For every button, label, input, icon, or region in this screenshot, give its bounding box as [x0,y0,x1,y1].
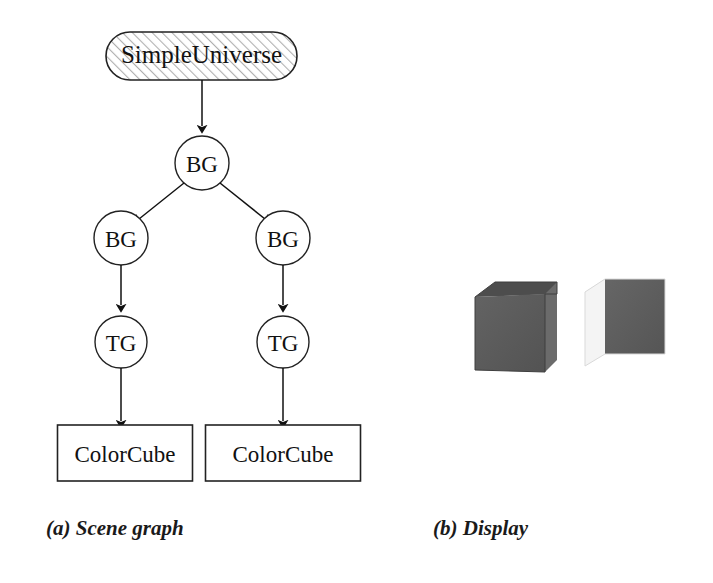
simple-universe-label: SimpleUniverse [121,41,282,68]
edge-line [139,183,184,219]
colorcube-right-label: ColorCube [233,442,334,467]
figure-canvas: SimpleUniverse BG BG BG [0,0,713,583]
node-tg-right[interactable]: TG [257,316,309,368]
tg-right-label: TG [268,331,299,356]
cube-left-front-face [475,294,545,372]
cube-right-front-face [605,279,665,354]
bg-left-label: BG [105,227,137,252]
tg-left-label: TG [106,331,137,356]
node-simple-universe[interactable]: SimpleUniverse [106,32,297,80]
edge-line [220,183,265,219]
cube-left-side-face [545,282,557,372]
node-bg-right[interactable]: BG [256,211,310,265]
colorcube-left-label: ColorCube [75,442,176,467]
rendered-cube-right [585,279,665,366]
edge-bg-root-to-bg-left [139,183,184,219]
bg-root-label: BG [186,152,218,177]
node-colorcube-right[interactable]: ColorCube [206,425,361,481]
caption-display: (b) Display [433,516,529,540]
bg-right-label: BG [267,227,299,252]
node-bg-left[interactable]: BG [94,211,148,265]
edge-bg-root-to-bg-right [220,183,265,219]
node-bg-root[interactable]: BG [175,136,229,190]
node-tg-left[interactable]: TG [95,316,147,368]
cube-right-side-face [585,279,605,366]
node-colorcube-left[interactable]: ColorCube [58,425,193,481]
caption-scene-graph: (a) Scene graph [46,516,184,540]
figure-container: SimpleUniverse BG BG BG [0,0,713,583]
rendered-cube-left [475,282,557,372]
